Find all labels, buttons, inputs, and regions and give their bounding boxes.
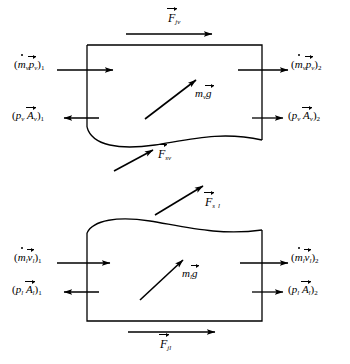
vapor-outlet-momentum-label: (mvpv)2: [291, 59, 322, 72]
liquid-inlet-momentum-label: (mlvl)1: [14, 252, 42, 265]
momentum-balance-diagram: Fjv (mvpv)1 (mvpv)2 (pv Av)1 (pv Av)2 mv…: [0, 0, 350, 364]
liquid-outlet-pressure-label: (pl Al)2: [288, 284, 318, 297]
liquid-gravity-arrow: [140, 260, 183, 300]
vapor-gravity-arrow: [145, 80, 196, 119]
vapor-inlet-pressure-label: (pv Av)1: [12, 110, 44, 123]
vapor-interface-force-label: Fsv: [158, 148, 171, 162]
liquid-interface-force-label: Fs l: [205, 196, 220, 210]
vapor-inlet-momentum-label: (mvpv)1: [14, 59, 45, 72]
liquid-inlet-pressure-label: (pl Al)1: [12, 284, 42, 297]
liquid-gravity-label: mlg: [182, 268, 197, 281]
vapor-interface-force-arrow: [114, 150, 153, 171]
liquid-interface-force-arrow: [155, 186, 203, 215]
liquid-bottom-force-label: Fjl: [160, 338, 171, 352]
vapor-outlet-pressure-label: (pv Av)2: [288, 110, 320, 123]
liquid-control-volume-boundary: [87, 219, 262, 321]
vapor-top-force-label: Fjv: [168, 12, 180, 26]
vapor-gravity-label: mvg: [195, 88, 212, 101]
liquid-outlet-momentum-label: (mlvl)2: [291, 252, 319, 265]
